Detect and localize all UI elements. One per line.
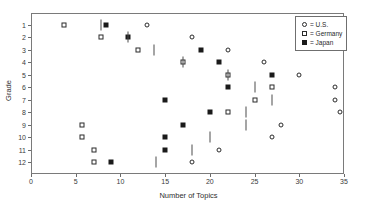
x-tick [210, 174, 211, 177]
y-tick [28, 162, 31, 163]
y-tick-label: 9 [5, 121, 26, 128]
median-bar [227, 69, 228, 80]
open-circle-icon [299, 22, 309, 27]
point-germany [79, 122, 84, 127]
point-us [261, 60, 266, 65]
point-japan [163, 135, 168, 140]
point-japan [225, 85, 230, 90]
x-tick [120, 174, 121, 177]
x-tick-label: 15 [161, 178, 169, 185]
y-tick-label: 12 [5, 159, 26, 166]
chart-legend: = U.S.= Germany= Japan [295, 16, 347, 51]
point-us [189, 160, 194, 165]
x-tick-label: 20 [206, 178, 214, 185]
point-germany [136, 47, 141, 52]
point-japan [109, 160, 114, 165]
y-tick-label: 2 [5, 34, 26, 41]
y-tick [28, 37, 31, 38]
y-tick-label: 3 [5, 46, 26, 53]
median-bar [209, 132, 210, 143]
point-germany [270, 85, 275, 90]
legend-label: = Japan [310, 39, 333, 46]
y-tick-label: 10 [5, 134, 26, 141]
x-tick [165, 174, 166, 177]
legend-item: = Japan [299, 38, 342, 47]
point-germany [252, 97, 257, 102]
legend-label: = Germany [310, 30, 342, 37]
y-axis-title: Grade [4, 61, 13, 121]
point-japan [163, 97, 168, 102]
x-tick [344, 174, 345, 177]
point-germany [91, 147, 96, 152]
point-us [189, 35, 194, 40]
scatter-chart: 05101520253035123456789101112 Grade Numb… [0, 0, 377, 207]
point-japan [104, 23, 109, 28]
median-bar [156, 157, 157, 168]
point-us [279, 122, 284, 127]
x-tick [31, 174, 32, 177]
y-tick [28, 150, 31, 151]
point-germany [79, 135, 84, 140]
point-japan [181, 122, 186, 127]
median-bar [183, 57, 184, 68]
point-germany [98, 35, 103, 40]
filled-square-icon [299, 40, 309, 45]
y-tick [28, 112, 31, 113]
point-us [270, 135, 275, 140]
point-japan [207, 110, 212, 115]
y-tick [28, 125, 31, 126]
x-tick-label: 25 [251, 178, 259, 185]
x-tick [299, 174, 300, 177]
point-japan [216, 60, 221, 65]
point-germany [91, 160, 96, 165]
x-tick-label: 10 [117, 178, 125, 185]
point-us [297, 72, 302, 77]
median-bar [245, 119, 246, 130]
y-tick-label: 1 [5, 22, 26, 29]
legend-item: = Germany [299, 29, 342, 38]
median-bar [191, 144, 192, 155]
y-tick [28, 87, 31, 88]
median-bar [245, 107, 246, 118]
y-tick [28, 75, 31, 76]
y-tick [28, 50, 31, 51]
median-bar [154, 44, 155, 55]
open-square-icon [299, 31, 309, 36]
point-us [333, 85, 338, 90]
x-tick [76, 174, 77, 177]
point-germany [62, 23, 67, 28]
y-tick [28, 137, 31, 138]
legend-label: = U.S. [310, 21, 328, 28]
point-germany [225, 110, 230, 115]
median-bar [127, 32, 128, 43]
point-us [216, 147, 221, 152]
x-axis-title: Number of Topics [0, 191, 377, 200]
median-bar [100, 20, 101, 31]
point-us [333, 97, 338, 102]
y-tick [28, 25, 31, 26]
median-bar [254, 82, 255, 93]
median-bar [272, 94, 273, 105]
x-tick-label: 5 [74, 178, 78, 185]
point-us [145, 23, 150, 28]
legend-item: = U.S. [299, 20, 342, 29]
y-tick [28, 62, 31, 63]
x-tick-label: 35 [340, 178, 348, 185]
point-japan [163, 147, 168, 152]
x-tick-label: 0 [29, 178, 33, 185]
point-japan [198, 47, 203, 52]
x-tick [255, 174, 256, 177]
x-tick-label: 30 [295, 178, 303, 185]
y-tick [28, 100, 31, 101]
point-us [225, 47, 230, 52]
y-tick-label: 11 [5, 146, 26, 153]
point-us [337, 110, 342, 115]
point-japan [270, 72, 275, 77]
